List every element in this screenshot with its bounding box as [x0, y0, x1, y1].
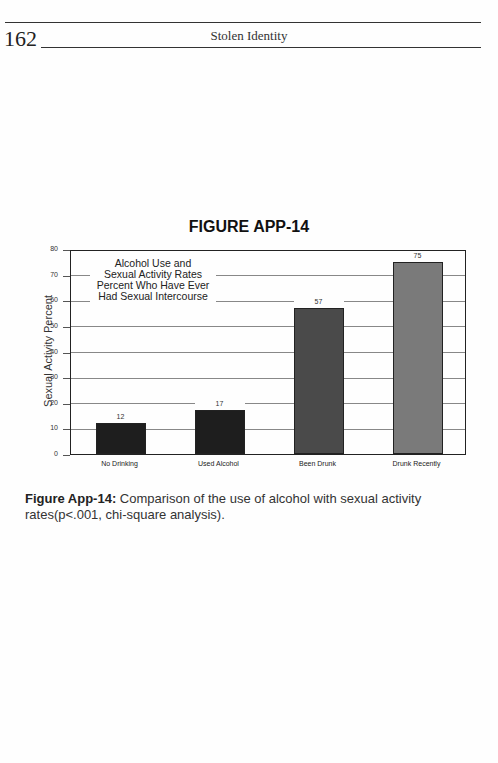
header-rule-top [5, 22, 481, 23]
y-tick-mark [63, 429, 70, 430]
bar-value-label: 57 [294, 298, 344, 305]
figure-caption: Figure App-14: Comparison of the use of … [25, 491, 480, 523]
legend-line: Had Sexual Intercourse [90, 291, 216, 302]
y-tick-mark [63, 250, 70, 251]
chart-legend-title: Alcohol Use and Sexual Activity Rates Pe… [90, 258, 216, 302]
running-title: Stolen Identity [0, 28, 498, 44]
y-tick-label: 40 [30, 348, 58, 355]
bar-drunk-recently [393, 262, 443, 454]
y-tick-label: 20 [30, 399, 58, 406]
y-tick-mark [63, 455, 70, 456]
y-tick-mark [63, 301, 70, 302]
bar-used-alcohol [195, 410, 245, 454]
caption-label: Figure App-14: [25, 491, 116, 506]
bar-no-drinking [96, 423, 146, 454]
y-tick-mark [63, 327, 70, 328]
x-tick-label: Drunk Recently [367, 460, 467, 467]
header-rule-bottom [41, 47, 481, 48]
y-tick-label: 50 [30, 322, 58, 329]
y-tick-mark [63, 378, 70, 379]
y-tick-label: 80 [30, 245, 58, 252]
y-tick-mark [63, 404, 70, 405]
bar-value-label: 17 [195, 400, 245, 407]
y-tick-label: 10 [30, 424, 58, 431]
y-tick-label: 30 [30, 373, 58, 380]
x-tick-label: No Drinking [70, 460, 170, 467]
bar-value-label: 12 [96, 413, 146, 420]
y-tick-label: 70 [30, 271, 58, 278]
figure-title: FIGURE APP-14 [0, 218, 498, 236]
x-tick-label: Used Alcohol [169, 460, 269, 467]
y-tick-label: 0 [30, 450, 58, 457]
y-tick-label: 60 [30, 296, 58, 303]
y-tick-mark [63, 353, 70, 354]
x-tick-label: Been Drunk [268, 460, 368, 467]
bar-value-label: 75 [393, 252, 443, 259]
y-tick-mark [63, 276, 70, 277]
bar-been-drunk [294, 308, 344, 454]
